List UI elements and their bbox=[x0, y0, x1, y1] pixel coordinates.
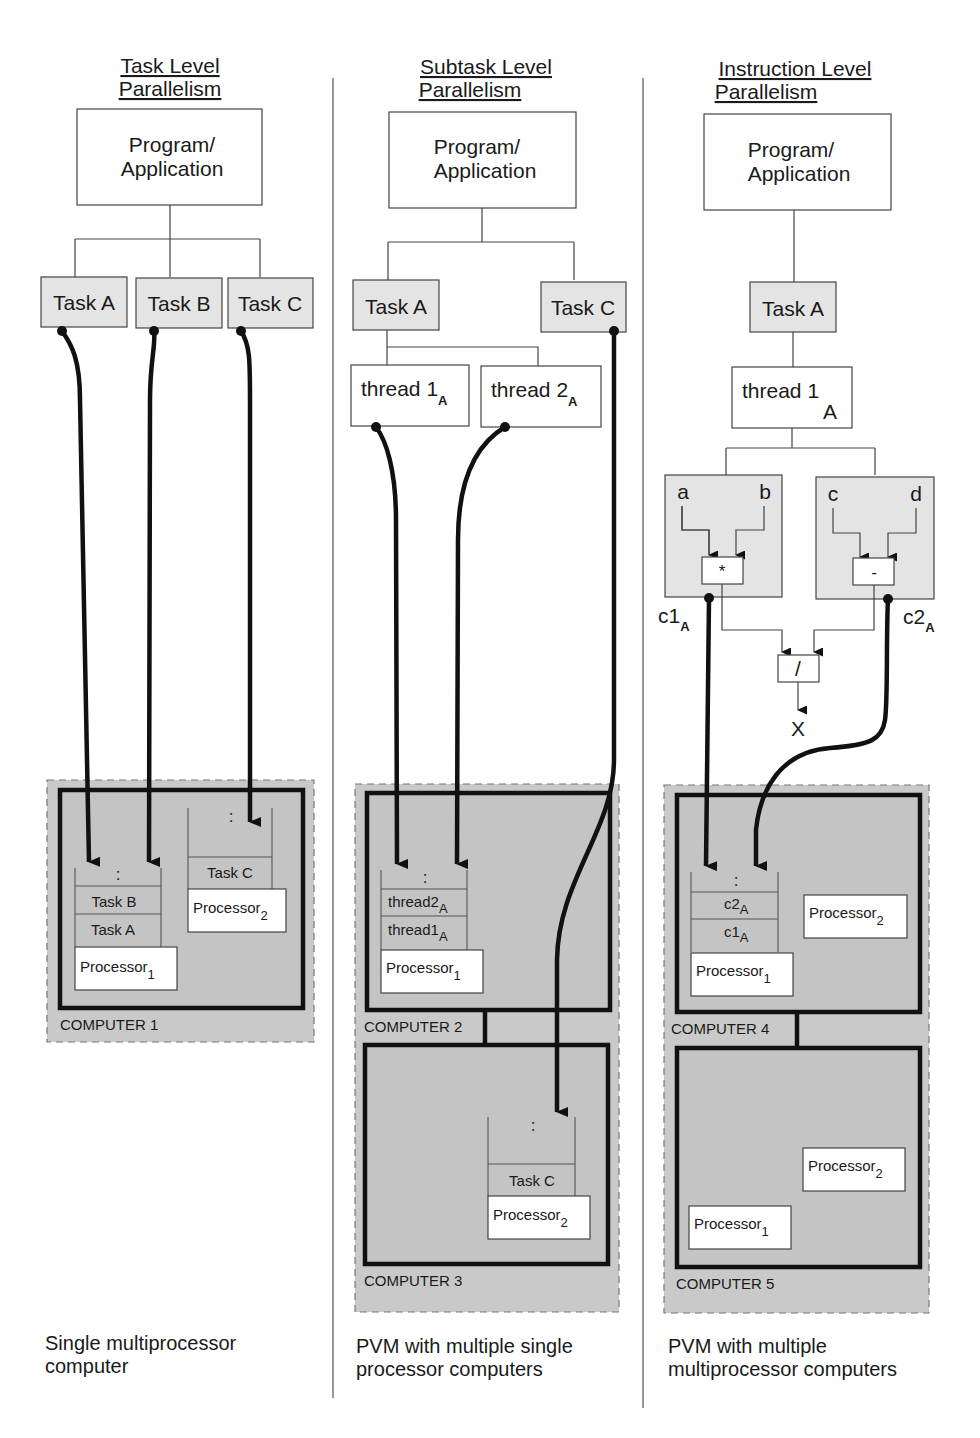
program-label: Application bbox=[748, 162, 851, 185]
task-label: Task A bbox=[53, 291, 115, 314]
column-title: Task Level bbox=[120, 54, 219, 77]
assignment-arrow bbox=[241, 331, 250, 822]
task-label: Task C bbox=[551, 296, 615, 319]
assignment-arrow bbox=[706, 598, 709, 866]
output-label: X bbox=[791, 717, 805, 740]
queue-ellipsis: : bbox=[531, 1116, 536, 1135]
computer-label: COMPUTER 4 bbox=[671, 1020, 769, 1037]
column-instruction-level: Instruction Level Parallelism Program/ A… bbox=[658, 57, 935, 1380]
program-label: Application bbox=[434, 159, 537, 182]
operator-label: / bbox=[795, 657, 801, 680]
operand-label: c bbox=[828, 482, 839, 505]
queue-ellipsis: : bbox=[734, 871, 739, 890]
computer-label: COMPUTER 2 bbox=[364, 1018, 462, 1035]
tree-connector bbox=[726, 428, 875, 475]
column-task-level: Task Level Parallelism Program/ Applicat… bbox=[41, 54, 314, 1377]
program-label: Program/ bbox=[129, 133, 216, 156]
computer-label: COMPUTER 3 bbox=[364, 1272, 462, 1289]
queue-item: Task A bbox=[91, 921, 135, 938]
operator-label: * bbox=[719, 562, 726, 581]
operand-label: b bbox=[759, 480, 771, 503]
column-title: Parallelism bbox=[119, 77, 222, 100]
task-label: Task A bbox=[762, 297, 824, 320]
column-caption: computer bbox=[45, 1355, 129, 1377]
queue-item: Task C bbox=[207, 864, 253, 881]
column-subtask-level: Subtask Level Parallelism Program/ Appli… bbox=[351, 55, 626, 1380]
result-label: c1A bbox=[658, 604, 690, 634]
program-label: Program/ bbox=[748, 138, 835, 161]
column-caption: PVM with multiple single bbox=[356, 1335, 573, 1357]
task-label: Task A bbox=[365, 295, 427, 318]
column-caption: multiprocessor computers bbox=[668, 1358, 897, 1380]
thread-subscript: A bbox=[823, 400, 837, 423]
task-label: Task C bbox=[238, 292, 302, 315]
operand-label: d bbox=[910, 482, 922, 505]
task-label: Task B bbox=[147, 292, 210, 315]
column-caption: processor computers bbox=[356, 1358, 543, 1380]
program-label: Program/ bbox=[434, 135, 521, 158]
tree-connector bbox=[75, 205, 260, 277]
column-title: Instruction Level bbox=[719, 57, 872, 80]
queue-ellipsis: : bbox=[229, 807, 234, 826]
queue-ellipsis: : bbox=[116, 865, 121, 884]
tree-connector bbox=[388, 208, 574, 280]
computer-label: COMPUTER 1 bbox=[60, 1016, 158, 1033]
queue-ellipsis: : bbox=[423, 868, 428, 887]
column-title: Subtask Level bbox=[420, 55, 552, 78]
operand-label: a bbox=[677, 480, 689, 503]
queue-item: Task C bbox=[509, 1172, 555, 1189]
computer-label: COMPUTER 5 bbox=[676, 1275, 774, 1292]
thread-label: thread 1 bbox=[742, 379, 819, 402]
column-title: Parallelism bbox=[419, 78, 522, 101]
column-caption: PVM with multiple bbox=[668, 1335, 827, 1357]
queue-item: Task B bbox=[91, 893, 136, 910]
program-label: Application bbox=[121, 157, 224, 180]
column-title: Parallelism bbox=[715, 80, 818, 103]
thread-connector bbox=[387, 330, 538, 366]
column-caption: Single multiprocessor bbox=[45, 1332, 237, 1354]
operator-label: - bbox=[871, 563, 877, 582]
result-label: c2A bbox=[903, 605, 935, 635]
parallelism-diagram: Task Level Parallelism Program/ Applicat… bbox=[0, 0, 980, 1438]
